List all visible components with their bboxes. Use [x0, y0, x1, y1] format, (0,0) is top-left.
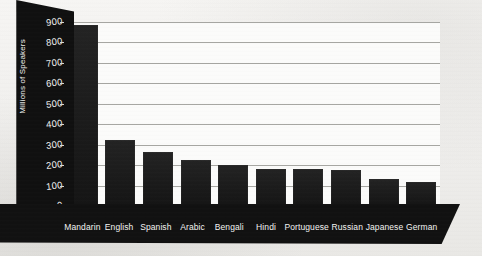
x-tick-label-russian: Russian: [329, 222, 366, 238]
x-tick-label-arabic: Arabic: [174, 222, 211, 238]
bar-bengali: [218, 165, 248, 206]
y-tick-mark-400: [60, 124, 64, 125]
y-tick-mark-500: [60, 104, 64, 105]
x-tick-label-japanese: Japanese: [366, 222, 404, 238]
y-tick-mark-200: [60, 165, 64, 166]
x-axis-label-group: MandarinEnglishSpanishArabicBengaliHindi…: [64, 222, 440, 238]
x-tick-label-bengali: Bengali: [211, 222, 248, 238]
bar-arabic: [181, 160, 211, 206]
bar-russian: [331, 170, 361, 206]
bar-chart-figure: 9008007006005004003002001000 Millions of…: [0, 0, 482, 256]
y-tick-mark-100: [60, 186, 64, 187]
x-tick-label-mandarin: Mandarin: [64, 222, 101, 238]
x-tick-label-portuguese: Portuguese: [284, 222, 328, 238]
bar-japanese: [369, 179, 399, 206]
y-tick-mark-600: [60, 83, 64, 84]
x-tick-label-english: English: [101, 222, 138, 238]
y-axis-panel: [0, 0, 74, 232]
bar-spanish: [143, 152, 173, 206]
x-tick-label-spanish: Spanish: [137, 222, 174, 238]
bar-english: [105, 140, 135, 206]
bar-portuguese: [293, 169, 323, 206]
bar-hindi: [256, 169, 286, 206]
y-tick-mark-800: [60, 42, 64, 43]
x-tick-label-hindi: Hindi: [248, 222, 285, 238]
y-axis-title: Millions of Speakers: [18, 17, 27, 137]
y-tick-mark-700: [60, 63, 64, 64]
y-tick-mark-900: [60, 22, 64, 23]
bar-series: [64, 22, 440, 206]
bar-german: [406, 182, 436, 207]
x-tick-label-german: German: [403, 222, 440, 238]
y-tick-mark-300: [60, 145, 64, 146]
